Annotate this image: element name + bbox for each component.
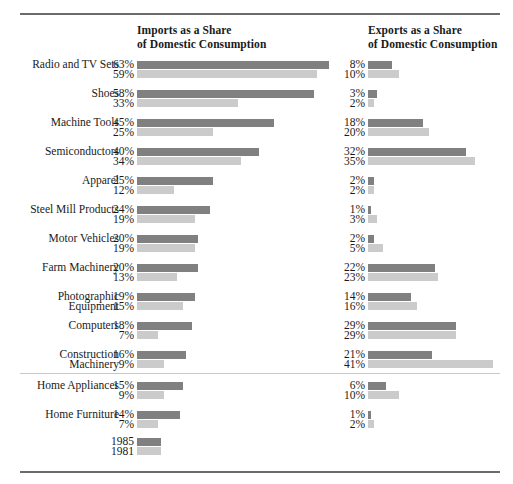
import-value-1981: 7% xyxy=(86,331,134,341)
export-bar-1981 xyxy=(368,70,399,78)
imports-header-line2: of Domestic Consumption xyxy=(137,38,266,52)
import-bar-1981 xyxy=(137,186,174,194)
import-bar-1985 xyxy=(137,293,195,301)
import-value-1981: 7% xyxy=(86,420,134,430)
legend-swatch-1981 xyxy=(137,447,161,455)
export-bar-1981 xyxy=(368,420,374,428)
export-bar-1985 xyxy=(368,351,432,359)
table-row: Steel Mill Products24%19%1%3% xyxy=(0,206,513,225)
table-row: Semiconductors40%34%32%35% xyxy=(0,148,513,167)
export-value-1981: 35% xyxy=(317,157,365,167)
import-bar-1985 xyxy=(137,177,213,185)
export-value-1981: 16% xyxy=(317,302,365,312)
table-row: Apparel25%12%2%2% xyxy=(0,177,513,196)
table-row: Home Furniture14%7%1%2% xyxy=(0,411,513,430)
export-bar-1981 xyxy=(368,99,374,107)
export-value-1981: 2% xyxy=(317,99,365,109)
table-row: ConstructionMachinery16%9%21%41% xyxy=(0,351,513,370)
export-bar-1985 xyxy=(368,235,374,243)
export-bar-1985 xyxy=(368,177,374,185)
table-row: Motor Vehicles20%19%2%5% xyxy=(0,235,513,254)
import-value-1981: 25% xyxy=(86,128,134,138)
table-row: Radio and TV Sets63%59%8%10% xyxy=(0,61,513,80)
table-row: Computers18%7%29%29% xyxy=(0,322,513,341)
export-value-1981: 41% xyxy=(317,360,365,370)
exports-header-line2: of Domestic Consumption xyxy=(368,38,497,52)
legend-label-1981: 1981 xyxy=(86,447,134,457)
import-bar-1981 xyxy=(137,331,158,339)
export-bar-1985 xyxy=(368,90,377,98)
top-rule xyxy=(20,13,500,15)
import-bar-1981 xyxy=(137,360,164,368)
chart-legend: 1985 1981 xyxy=(0,438,513,458)
import-bar-1985 xyxy=(137,264,198,272)
export-value-1981: 20% xyxy=(317,128,365,138)
import-bar-1981 xyxy=(137,244,195,252)
table-row: Shoes58%33%3%2% xyxy=(0,90,513,109)
imports-column-header: Imports as a Share of Domestic Consumpti… xyxy=(137,24,266,51)
import-bar-1985 xyxy=(137,148,259,156)
import-bar-1985 xyxy=(137,90,314,98)
import-bar-1981 xyxy=(137,99,238,107)
export-bar-1981 xyxy=(368,157,475,165)
export-value-1981: 5% xyxy=(317,244,365,254)
exports-column-header: Exports as a Share of Domestic Consumpti… xyxy=(368,24,497,51)
import-bar-1981 xyxy=(137,157,241,165)
import-value-1981: 19% xyxy=(86,244,134,254)
export-value-1981: 10% xyxy=(317,391,365,401)
table-row: Home Appliances15%9%6%10% xyxy=(0,382,513,401)
export-value-1981: 3% xyxy=(317,215,365,225)
import-value-1981: 34% xyxy=(86,157,134,167)
import-value-1981: 33% xyxy=(86,99,134,109)
export-bar-1985 xyxy=(368,206,371,214)
import-bar-1985 xyxy=(137,411,180,419)
export-bar-1981 xyxy=(368,331,456,339)
table-row: Machine Tools45%25%18%20% xyxy=(0,119,513,138)
export-value-1981: 29% xyxy=(317,331,365,341)
import-bar-1981 xyxy=(137,391,164,399)
import-bar-1981 xyxy=(137,215,195,223)
export-bar-1985 xyxy=(368,411,371,419)
export-bar-1985 xyxy=(368,382,386,390)
import-bar-1985 xyxy=(137,322,192,330)
import-value-1981: 9% xyxy=(86,391,134,401)
export-bar-1981 xyxy=(368,186,374,194)
bottom-rule xyxy=(20,471,500,473)
import-bar-1981 xyxy=(137,273,177,281)
export-bar-1981 xyxy=(368,302,417,310)
export-bar-1981 xyxy=(368,391,399,399)
import-bar-1981 xyxy=(137,128,213,136)
import-bar-1981 xyxy=(137,302,183,310)
export-bar-1981 xyxy=(368,360,493,368)
export-bar-1985 xyxy=(368,264,435,272)
export-value-1981: 2% xyxy=(317,420,365,430)
export-bar-1981 xyxy=(368,244,383,252)
import-value-1981: 9% xyxy=(86,360,134,370)
legend-swatch-1985 xyxy=(137,438,161,446)
import-bar-1985 xyxy=(137,61,329,69)
imports-header-line1: Imports as a Share xyxy=(137,24,232,36)
export-bar-1985 xyxy=(368,293,411,301)
import-value-1981: 15% xyxy=(86,302,134,312)
export-value-1981: 2% xyxy=(317,186,365,196)
export-bar-1985 xyxy=(368,148,466,156)
export-bar-1985 xyxy=(368,119,423,127)
export-bar-1981 xyxy=(368,215,377,223)
import-bar-1985 xyxy=(137,235,198,243)
table-row: Farm Machinery20%13%22%23% xyxy=(0,264,513,283)
import-value-1981: 59% xyxy=(86,70,134,80)
import-bar-1985 xyxy=(137,206,210,214)
import-bar-1985 xyxy=(137,119,274,127)
import-value-1981: 12% xyxy=(86,186,134,196)
import-value-1981: 13% xyxy=(86,273,134,283)
export-bar-1981 xyxy=(368,273,438,281)
exports-header-line1: Exports as a Share xyxy=(368,24,462,36)
import-bar-1981 xyxy=(137,70,317,78)
import-bar-1985 xyxy=(137,351,186,359)
export-value-1981: 23% xyxy=(317,273,365,283)
import-bar-1981 xyxy=(137,420,158,428)
chart-page: Imports as a Share of Domestic Consumpti… xyxy=(0,0,513,484)
export-value-1981: 10% xyxy=(317,70,365,80)
export-bar-1985 xyxy=(368,322,456,330)
import-value-1981: 19% xyxy=(86,215,134,225)
